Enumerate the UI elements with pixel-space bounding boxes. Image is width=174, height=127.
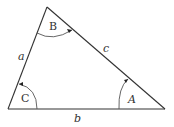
side-c-line bbox=[47, 7, 165, 109]
side-a-label: a bbox=[18, 50, 25, 63]
triangle-diagram: B C A a b c bbox=[0, 0, 174, 127]
angle-b-label: B bbox=[49, 20, 57, 33]
angle-a-arc bbox=[119, 79, 128, 109]
angle-a-label: A bbox=[127, 93, 136, 106]
angle-c-arrowhead-icon bbox=[19, 82, 23, 86]
side-b-label: b bbox=[74, 112, 81, 125]
angle-c-label: C bbox=[21, 92, 29, 105]
side-c-label: c bbox=[103, 42, 109, 55]
